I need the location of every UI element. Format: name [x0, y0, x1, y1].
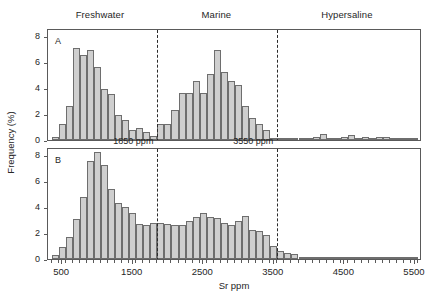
- histogram-bar: [284, 138, 291, 140]
- y-axis-tick: [44, 260, 47, 261]
- histogram-bar: [277, 138, 284, 140]
- histogram-bar: [249, 230, 256, 259]
- x-axis-minor-tick: [305, 260, 306, 263]
- histogram-bar: [87, 50, 94, 141]
- x-axis-minor-tick: [403, 260, 404, 263]
- panel-b: [47, 148, 421, 260]
- histogram-bar: [66, 106, 73, 141]
- zone-label-marine: Marine: [166, 9, 266, 20]
- x-axis-minor-tick: [178, 260, 179, 263]
- histogram-bar: [362, 257, 369, 259]
- x-axis-minor-tick: [227, 260, 228, 263]
- x-axis-minor-tick: [86, 260, 87, 263]
- x-axis-minor-tick: [410, 260, 411, 263]
- histogram-bar: [101, 89, 108, 140]
- x-axis-minor-tick: [396, 260, 397, 263]
- histogram-bar: [355, 138, 362, 140]
- x-axis-minor-tick: [241, 260, 242, 263]
- histogram-bar: [313, 257, 320, 259]
- y-axis-tick: [44, 115, 47, 116]
- y-axis-tick-label: 6: [24, 176, 40, 186]
- histogram-bar: [376, 257, 383, 259]
- y-axis-tick: [44, 37, 47, 38]
- y-axis-title: Frequency (%): [5, 107, 16, 177]
- histogram-bar: [383, 137, 390, 140]
- x-axis-minor-tick: [121, 260, 122, 263]
- histogram-bar: [129, 213, 136, 259]
- x-axis-minor-tick: [79, 260, 80, 263]
- histogram-bar: [397, 257, 404, 259]
- histogram-bar: [411, 138, 418, 140]
- histogram-bar: [291, 254, 298, 259]
- histogram-bar: [341, 137, 348, 140]
- histogram-bar: [348, 257, 355, 259]
- x-axis-minor-tick: [128, 260, 129, 263]
- x-axis-minor-tick: [220, 260, 221, 263]
- histogram-bar: [207, 217, 214, 259]
- x-axis-tick: [273, 260, 274, 264]
- histogram-bar: [200, 93, 207, 140]
- x-axis-minor-tick: [51, 260, 52, 263]
- x-axis-minor-tick: [170, 260, 171, 263]
- x-axis-tick: [414, 260, 415, 264]
- histogram-bar: [221, 72, 228, 140]
- x-axis-minor-tick: [142, 260, 143, 263]
- x-axis-minor-tick: [192, 260, 193, 263]
- zone-boundary-line: [277, 149, 278, 260]
- histogram-bar: [179, 93, 186, 140]
- histogram-bar: [108, 189, 115, 259]
- x-axis-minor-tick: [248, 260, 249, 263]
- panel-a: [47, 29, 421, 141]
- x-axis-minor-tick: [298, 260, 299, 263]
- zone-label-hypersaline: Hypersaline: [297, 9, 397, 20]
- histogram-bar: [186, 93, 193, 140]
- histogram-bar: [228, 225, 235, 260]
- histogram-bar: [369, 138, 376, 140]
- x-axis-minor-tick: [72, 260, 73, 263]
- histogram-bar: [341, 257, 348, 259]
- boundary-annotation: 3550 ppm: [229, 136, 273, 146]
- x-axis-minor-tick: [199, 260, 200, 263]
- x-axis-minor-tick: [107, 260, 108, 263]
- x-axis-tick-label: 500: [41, 266, 81, 277]
- histogram-bar: [327, 138, 334, 140]
- histogram-bar: [256, 231, 263, 259]
- x-axis-minor-tick: [269, 260, 270, 263]
- histogram-bar: [291, 138, 298, 140]
- y-axis-tick: [44, 234, 47, 235]
- histogram-bar: [87, 161, 94, 259]
- histogram-bar: [186, 221, 193, 259]
- histogram-bar: [171, 225, 178, 259]
- x-axis-minor-tick: [333, 260, 334, 263]
- x-axis-minor-tick: [100, 260, 101, 263]
- x-axis-minor-tick: [326, 260, 327, 263]
- histogram-bar: [313, 137, 320, 140]
- y-axis-tick-label: 8: [24, 150, 40, 160]
- x-axis-minor-tick: [375, 260, 376, 263]
- x-axis-minor-tick: [368, 260, 369, 263]
- x-axis-minor-tick: [347, 260, 348, 263]
- histogram-bar: [73, 219, 80, 259]
- x-axis-minor-tick: [319, 260, 320, 263]
- histogram-bar: [383, 257, 390, 259]
- y-axis-tick-label: 0: [24, 135, 40, 145]
- histogram-bar: [179, 225, 186, 260]
- histogram-bar: [80, 55, 87, 140]
- histogram-bar: [122, 207, 129, 259]
- histogram-bar: [59, 247, 66, 259]
- histogram-bar: [277, 251, 284, 259]
- y-axis-tick: [44, 208, 47, 209]
- x-axis-minor-tick: [93, 260, 94, 263]
- x-axis-minor-tick: [283, 260, 284, 263]
- x-axis-minor-tick: [163, 260, 164, 263]
- y-axis-tick-label: 0: [24, 254, 40, 264]
- histogram-bar: [334, 138, 341, 140]
- x-axis-minor-tick: [382, 260, 383, 263]
- x-axis-minor-tick: [135, 260, 136, 263]
- histogram-bar: [320, 134, 327, 140]
- histogram-bar: [390, 257, 397, 259]
- x-axis-tick-label: 5500: [394, 266, 434, 277]
- zone-boundary-line: [157, 30, 158, 141]
- panel-a-letter: A: [55, 36, 61, 46]
- histogram-bar: [193, 217, 200, 259]
